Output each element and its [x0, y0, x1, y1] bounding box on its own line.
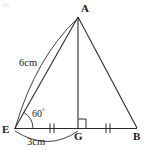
vertex-label-A: A	[81, 3, 89, 14]
measure-arc-3cm	[15, 131, 78, 142]
vertex-label-G: G	[74, 131, 83, 142]
vertex-label-B: B	[133, 131, 140, 142]
geometry-figure: 10. A E G B 6cm 3cm	[0, 0, 149, 157]
angle-value: 60	[32, 108, 42, 119]
length-label-3cm: 3cm	[27, 137, 45, 148]
length-label-6cm: 6cm	[19, 58, 37, 69]
degree-symbol: °	[42, 107, 45, 115]
vertex-label-E: E	[2, 124, 9, 135]
right-angle-marker-G	[79, 119, 87, 128]
angle-label-60: 60°	[32, 108, 45, 119]
segment-AB	[78, 17, 137, 128]
